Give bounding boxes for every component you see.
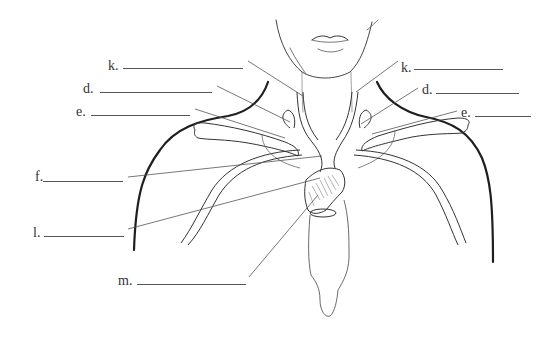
leader-f-left [128,156,322,177]
answer-blank-e-left[interactable] [91,115,190,116]
answer-blank-l-left[interactable] [44,236,124,237]
label-f-left: f. [35,170,43,184]
anatomy-illustration [0,0,555,342]
label-d-left: d. [83,82,94,96]
label-d-right: d. [422,83,433,97]
answer-blank-m-left[interactable] [137,284,246,285]
leader-m-left [249,195,318,277]
answer-blank-d-left[interactable] [100,92,212,93]
leader-d-right [361,88,418,124]
label-e-left: e. [76,105,86,119]
label-k-right: k. [401,61,412,75]
body-outline [134,20,493,262]
leader-lines [128,61,457,277]
label-e-right: e. [461,106,471,120]
answer-blank-d-right[interactable] [436,93,519,94]
leader-l-left [128,178,320,229]
clavicles [194,118,469,168]
answer-blank-f-left[interactable] [43,181,123,182]
leader-k-left [248,61,303,96]
leader-k-right [356,61,398,92]
answer-blank-e-right[interactable] [475,116,531,117]
answer-blank-k-right[interactable] [414,69,503,70]
label-k-left: k. [108,59,119,73]
answer-blank-k-left[interactable] [123,68,243,69]
diagram-canvas: k. d. e. f. l. m. k. d. e. [0,0,555,342]
superior-vena-cava [305,142,349,316]
label-l-left: l. [33,226,40,240]
label-m-left: m. [118,274,132,288]
jugular-veins [283,92,371,142]
